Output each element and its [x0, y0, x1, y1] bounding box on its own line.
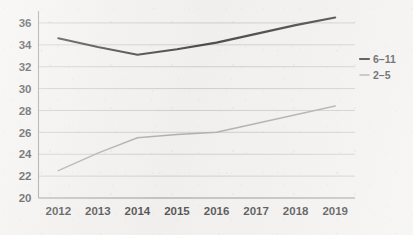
- x-axis-tick-labels: 20122013201420152016201720182019: [45, 205, 348, 217]
- gridlines: [39, 23, 356, 198]
- x-tick-label-2012: 2012: [45, 205, 71, 217]
- x-tick-label-2015: 2015: [164, 205, 190, 217]
- chart-legend: 6–112–5: [360, 53, 396, 81]
- y-tick-label-22: 22: [19, 170, 32, 182]
- series-line-2-5: [58, 106, 335, 171]
- x-tick-label-2013: 2013: [85, 205, 111, 217]
- y-axis-tick-labels: 202224262830323436: [19, 17, 32, 204]
- chart-canvas: 202224262830323436 201220132014201520162…: [0, 0, 413, 235]
- y-tick-label-24: 24: [19, 148, 32, 160]
- line-chart-figure: 202224262830323436 201220132014201520162…: [0, 0, 413, 235]
- x-tick-label-2014: 2014: [125, 205, 151, 217]
- x-tick-label-2016: 2016: [204, 205, 230, 217]
- y-tick-label-26: 26: [19, 127, 32, 139]
- legend-label-6-11: 6–11: [373, 53, 396, 65]
- data-series: [58, 17, 335, 170]
- y-tick-label-36: 36: [19, 17, 32, 29]
- y-tick-label-28: 28: [19, 105, 32, 117]
- y-tick-label-30: 30: [19, 83, 32, 95]
- x-tick-label-2018: 2018: [283, 205, 309, 217]
- legend-label-2-5: 2–5: [373, 69, 391, 81]
- y-tick-label-20: 20: [19, 192, 32, 204]
- axes: [39, 11, 356, 198]
- y-tick-label-32: 32: [19, 61, 32, 73]
- x-tick-label-2019: 2019: [322, 205, 348, 217]
- x-tick-label-2017: 2017: [243, 205, 269, 217]
- y-tick-label-34: 34: [19, 39, 32, 51]
